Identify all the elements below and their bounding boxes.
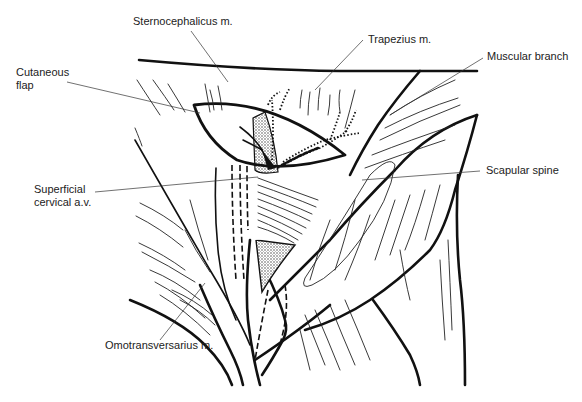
deltoid-line xyxy=(255,305,330,360)
trapezius-border xyxy=(350,71,420,175)
label-scapular-spine: Scapular spine xyxy=(486,164,559,177)
scapular-spine xyxy=(304,162,395,287)
leader-cutaneous-flap xyxy=(67,82,200,113)
fascia-band xyxy=(255,172,320,240)
label-cutaneous-flap-line1: Cutaneous xyxy=(16,66,69,79)
leader-trapezius xyxy=(315,40,363,90)
label-superficial-cervical-line2: cervical a.v. xyxy=(34,196,91,209)
vessel-dashed-2 xyxy=(240,165,244,280)
label-trapezius: Trapezius m. xyxy=(368,33,431,46)
label-superficial-cervical-line1: Superficial xyxy=(34,183,91,196)
leader-sternocephalicus xyxy=(191,31,228,82)
vessel-dashed-1 xyxy=(232,165,236,280)
label-cutaneous-flap-line2: flap xyxy=(16,79,69,92)
label-sternocephalicus: Sternocephalicus m. xyxy=(133,15,233,28)
leader-muscular-branch xyxy=(390,58,483,115)
leader-scapular-spine xyxy=(362,171,480,180)
label-superficial-cervical: Superficial cervical a.v. xyxy=(34,183,91,209)
dorsal-outline xyxy=(139,60,477,71)
limb-outline-right xyxy=(457,175,465,385)
vessel-dashed-3 xyxy=(247,166,248,230)
label-cutaneous-flap: Cutaneous flap xyxy=(16,66,69,92)
muscular-branch-vessels xyxy=(268,88,360,168)
omotransversarius-left xyxy=(200,285,243,385)
label-omotransversarius: Omotransversarius m. xyxy=(105,339,213,352)
lower-exposed-tissue xyxy=(256,240,295,292)
label-muscular-branch: Muscular branch xyxy=(487,50,568,63)
omo-dashed-1 xyxy=(255,290,268,360)
leader-superficial-cervical xyxy=(95,177,258,192)
limb-outline-mid xyxy=(373,300,420,385)
